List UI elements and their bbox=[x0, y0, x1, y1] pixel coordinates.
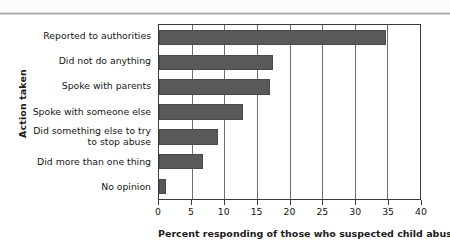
x-tick bbox=[388, 200, 389, 205]
bar-row bbox=[159, 25, 420, 50]
bar-row bbox=[159, 149, 420, 174]
category-label: Did not do anything bbox=[12, 49, 155, 74]
x-tick-label: 35 bbox=[382, 206, 394, 217]
bar-row bbox=[159, 124, 420, 149]
x-tick-label: 10 bbox=[218, 206, 230, 217]
x-tick-label: 5 bbox=[188, 206, 194, 217]
bar bbox=[159, 129, 218, 144]
category-label-column: Reported to authoritiesDid not do anythi… bbox=[12, 24, 155, 200]
bar bbox=[159, 179, 166, 194]
category-label: No opinion bbox=[12, 175, 155, 200]
x-tick-label: 40 bbox=[415, 206, 427, 217]
category-label: Spoke with someone else bbox=[12, 99, 155, 124]
bar-row bbox=[159, 100, 420, 125]
x-tick bbox=[257, 200, 258, 205]
bar bbox=[159, 30, 386, 45]
plot-area bbox=[158, 24, 421, 200]
category-label: Spoke with parents bbox=[12, 74, 155, 99]
bar-chart: Action taken Reported to authoritiesDid … bbox=[0, 0, 450, 252]
category-label: Reported to authorities bbox=[12, 24, 155, 49]
bar bbox=[159, 79, 270, 94]
x-tick-label: 15 bbox=[251, 206, 263, 217]
category-label: Did more than one thing bbox=[12, 150, 155, 175]
x-axis-tick-labels: 0510152025303540 bbox=[158, 206, 421, 220]
x-tick-label: 25 bbox=[316, 206, 328, 217]
bar bbox=[159, 104, 243, 119]
x-tick bbox=[224, 200, 225, 205]
x-tick bbox=[158, 200, 159, 205]
bar-row bbox=[159, 75, 420, 100]
x-tick-label: 30 bbox=[349, 206, 361, 217]
x-tick bbox=[322, 200, 323, 205]
category-label: Did something else to tryto stop abuse bbox=[12, 125, 155, 150]
x-axis-title: Percent responding of those who suspecte… bbox=[158, 228, 421, 239]
x-tick bbox=[191, 200, 192, 205]
bar bbox=[159, 55, 273, 70]
x-tick-label: 0 bbox=[155, 206, 161, 217]
x-tick bbox=[290, 200, 291, 205]
bar-series bbox=[159, 25, 420, 199]
bar bbox=[159, 154, 203, 169]
x-tick bbox=[421, 200, 422, 205]
x-tick bbox=[355, 200, 356, 205]
x-tick-label: 20 bbox=[284, 206, 296, 217]
bar-row bbox=[159, 174, 420, 199]
bar-row bbox=[159, 50, 420, 75]
